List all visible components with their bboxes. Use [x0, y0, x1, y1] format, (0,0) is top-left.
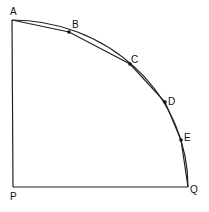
label-P: P: [10, 191, 17, 202]
label-E: E: [184, 132, 191, 143]
radius-PA: [12, 20, 13, 187]
arc-AQ: [12, 20, 188, 187]
point-B-dot: [67, 30, 71, 34]
point-E-dot: [179, 138, 183, 142]
label-D: D: [168, 96, 175, 107]
label-B: B: [72, 19, 79, 30]
quarter-circle-diagram: A B C D E P Q: [0, 0, 209, 212]
label-C: C: [131, 54, 138, 65]
point-D-dot: [163, 100, 167, 104]
label-A: A: [10, 6, 17, 17]
chord-polyline: [12, 20, 188, 187]
label-Q: Q: [190, 184, 198, 195]
